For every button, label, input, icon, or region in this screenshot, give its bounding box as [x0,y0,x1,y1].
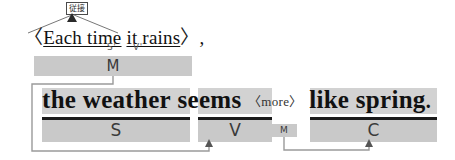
main-complement-text: like spring [309,86,426,113]
verb-prime-mark: V' [133,42,143,52]
clause-comma: , [200,27,205,48]
subject-bar: S [42,117,190,142]
close-angle-bracket: 〉 [180,27,199,48]
main-clause-line: the weather seems 〈more〉 like spring. [42,86,431,116]
subordinating-conjunction-tag: 従接 [66,2,88,15]
main-subject-text: the weather [42,86,171,113]
main-modifier-text: 〈more〉 [248,94,303,109]
open-angle-bracket: 〈 [24,27,43,48]
complement-bar: C [310,117,437,142]
main-verb-text: seems [178,86,242,113]
subject-prime-mark: S' [107,42,116,52]
verb-bar: V [198,117,272,142]
grammar-diagram-canvas: 従接 〈Each time it rains〉, S' V' M the wea… [0,0,455,160]
modifier-bar-small: M [271,124,297,137]
modifier-bar-clause: M [34,56,192,76]
sentence-period: . [426,90,431,112]
